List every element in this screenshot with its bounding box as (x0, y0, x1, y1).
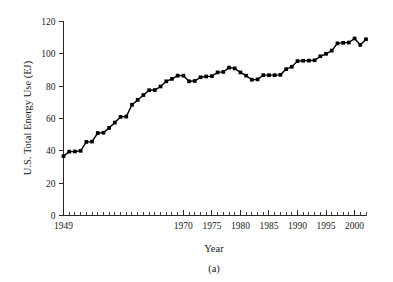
data-point-marker (136, 98, 140, 102)
data-point-marker (233, 67, 237, 71)
data-point-marker (153, 88, 157, 92)
data-point-marker (124, 115, 128, 119)
data-point-marker (159, 85, 163, 89)
x-tick-label: 1949 (54, 221, 73, 231)
figure-caption: (a) (208, 263, 220, 275)
data-point-marker (176, 74, 180, 78)
data-point-marker (313, 58, 317, 62)
data-point-marker (221, 70, 225, 74)
data-point-marker (307, 59, 311, 63)
data-point-marker (119, 115, 123, 119)
x-tick-label: 1990 (288, 221, 307, 231)
data-point-marker (273, 73, 277, 77)
data-point-marker (216, 71, 220, 75)
data-point-marker (290, 65, 294, 69)
data-point-marker (130, 103, 134, 107)
data-point-marker (84, 140, 88, 144)
data-point-marker (204, 75, 208, 79)
x-tick-label: 1995 (317, 221, 336, 231)
data-point-marker (364, 37, 368, 41)
y-tick-label: 20 (46, 179, 56, 189)
x-tick-label: 1985 (259, 221, 278, 231)
x-tick-label: 2000 (345, 221, 364, 231)
data-point-marker (324, 52, 328, 56)
data-point-marker (301, 59, 305, 63)
data-point-marker (279, 73, 283, 77)
y-tick-label: 120 (41, 17, 56, 27)
data-point-marker (256, 78, 260, 82)
y-tick-label: 100 (41, 49, 56, 59)
data-point-marker (330, 49, 334, 53)
data-point-marker (261, 73, 265, 77)
data-point-marker (347, 41, 351, 45)
y-tick-label: 80 (46, 82, 56, 92)
x-tick-label: 1980 (231, 221, 250, 231)
data-point-marker (267, 73, 271, 77)
y-tick-label: 0 (51, 211, 56, 221)
data-point-marker (244, 74, 248, 78)
data-point-marker (113, 121, 117, 125)
y-tick-label: 60 (46, 114, 56, 124)
y-axis-title: U.S. Total Energy Use (EJ) (22, 60, 34, 175)
data-point-marker (318, 54, 322, 58)
data-point-marker (239, 71, 243, 75)
data-point-marker (182, 74, 186, 78)
data-point-marker (250, 78, 254, 82)
data-point-marker (102, 131, 106, 135)
data-point-marker (107, 126, 111, 130)
data-point-marker (358, 43, 362, 47)
data-point-marker (227, 66, 231, 70)
x-axis-title: Year (204, 243, 224, 254)
series-data-markers (62, 37, 368, 158)
data-point-marker (336, 41, 340, 45)
data-point-marker (284, 67, 288, 71)
data-point-marker (62, 154, 66, 158)
data-point-marker (187, 79, 191, 83)
data-point-marker (341, 41, 345, 45)
figure-container: 020406080100120 194919701975198019851990… (0, 0, 393, 282)
data-point-marker (73, 150, 77, 154)
data-point-marker (170, 77, 174, 81)
data-point-marker (193, 79, 197, 83)
data-point-marker (296, 59, 300, 63)
x-tick-label: 1970 (174, 221, 193, 231)
data-point-marker (142, 93, 146, 97)
x-tick-label: 1975 (202, 221, 221, 231)
data-point-marker (67, 150, 71, 154)
x-axis-ticks: 19491970197519801985199019952000 (54, 210, 366, 231)
energy-use-line-chart: 020406080100120 194919701975198019851990… (0, 0, 393, 282)
data-point-marker (90, 140, 94, 144)
data-point-marker (210, 74, 214, 78)
data-point-marker (79, 149, 83, 153)
data-point-marker (164, 79, 168, 83)
data-point-marker (147, 88, 151, 92)
data-point-marker (353, 37, 357, 41)
y-axis-ticks: 020406080100120 (41, 17, 63, 221)
y-tick-label: 40 (46, 146, 56, 156)
data-point-marker (96, 131, 100, 135)
data-point-marker (199, 75, 203, 79)
